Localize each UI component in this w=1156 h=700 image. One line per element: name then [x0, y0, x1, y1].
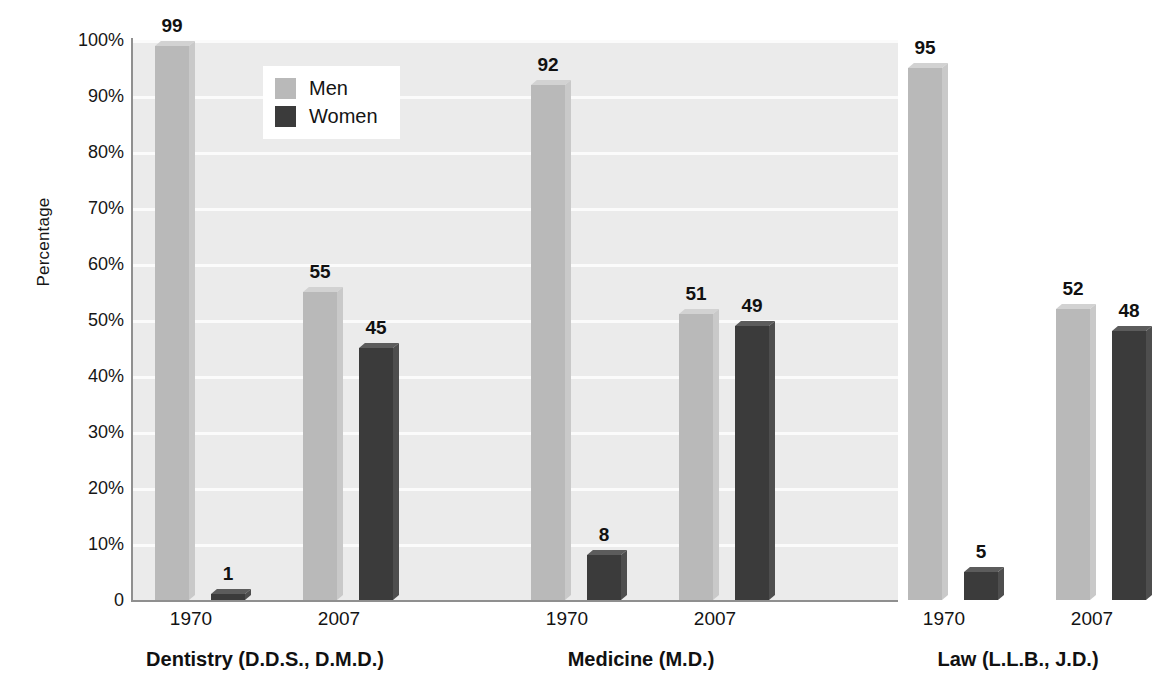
bar-value-label: 1: [202, 563, 254, 585]
bar-side-face: [337, 287, 343, 600]
bar-value-label: 99: [146, 15, 198, 37]
y-axis-tick-60: 60%: [44, 254, 124, 275]
bar-side-face: [1146, 326, 1152, 600]
bar-women-law-2007: [1112, 331, 1152, 600]
x-axis-group-label: Dentistry (D.D.S., D.M.D.): [95, 648, 435, 671]
x-axis-group-label: Medicine (M.D.): [471, 648, 811, 671]
gridline-90: [133, 96, 898, 99]
bar-side-face: [393, 343, 399, 600]
y-axis-tick-10: 10%: [44, 534, 124, 555]
bar-face: [359, 348, 393, 600]
bar-side-face: [942, 63, 948, 600]
bar-value-label: 8: [578, 524, 630, 546]
bar-face: [155, 46, 189, 600]
bar-side-face: [998, 567, 1004, 600]
y-axis-tick-100: 100%: [44, 30, 124, 51]
bar-face: [303, 292, 337, 600]
bar-women-law-1970: [964, 572, 1004, 600]
chart-legend: MenWomen: [263, 66, 400, 139]
legend-label: Men: [309, 77, 348, 100]
x-axis-year-law-2007: 2007: [1037, 608, 1147, 630]
bar-men-medicine-1970: [531, 85, 571, 600]
gridline-70: [133, 208, 898, 211]
bar-men-law-2007: [1056, 309, 1096, 600]
x-axis-year-medicine-2007: 2007: [660, 608, 770, 630]
legend-swatch-icon: [275, 106, 296, 127]
bar-side-face: [565, 80, 571, 600]
bar-face: [531, 85, 565, 600]
bar-women-dentistry-2007: [359, 348, 399, 600]
plot-area: 991554592851499555248: [133, 40, 898, 600]
bar-value-label: 5: [955, 541, 1007, 563]
x-axis-year-dentistry-2007: 2007: [284, 608, 394, 630]
gridline-80: [133, 152, 898, 155]
bar-face: [735, 326, 769, 600]
legend-label: Women: [309, 105, 378, 128]
bar-women-dentistry-1970: [211, 594, 251, 600]
bar-face: [1112, 331, 1146, 600]
bar-side-face: [769, 321, 775, 600]
bar-side-face: [621, 550, 627, 600]
y-axis-tick-30: 30%: [44, 422, 124, 443]
x-axis-group-labels: Dentistry (D.D.S., D.M.D.)Medicine (M.D.…: [133, 648, 898, 682]
bar-value-label: 45: [350, 317, 402, 339]
bar-side-face: [189, 41, 195, 600]
gridline-20: [133, 488, 898, 491]
bar-side-face: [713, 309, 719, 600]
legend-item-men: Men: [275, 74, 378, 102]
gridline-50: [133, 320, 898, 323]
y-axis-tick-70: 70%: [44, 198, 124, 219]
bar-value-label: 49: [726, 295, 778, 317]
x-axis-year-dentistry-1970: 1970: [136, 608, 246, 630]
bar-men-dentistry-1970: [155, 46, 195, 600]
bar-face: [964, 572, 998, 600]
bar-face: [679, 314, 713, 600]
x-axis-year-medicine-1970: 1970: [512, 608, 622, 630]
bar-value-label: 95: [899, 37, 951, 59]
x-axis-year-law-1970: 1970: [889, 608, 999, 630]
bar-women-medicine-2007: [735, 326, 775, 600]
bar-face: [908, 68, 942, 600]
y-axis-tick-50: 50%: [44, 310, 124, 331]
gridline-100: [133, 40, 898, 43]
y-axis-tick-90: 90%: [44, 86, 124, 107]
bar-men-medicine-2007: [679, 314, 719, 600]
bar-men-law-1970: [908, 68, 948, 600]
bar-women-medicine-1970: [587, 555, 627, 600]
y-axis-tick-0: 0: [44, 590, 124, 611]
y-axis-tick-labels: 100%90%80%70%60%50%40%30%20%10%0: [44, 40, 124, 600]
bar-face: [1056, 309, 1090, 600]
y-axis-tick-40: 40%: [44, 366, 124, 387]
x-axis-year-labels: 197020071970200719702007: [133, 608, 898, 638]
bar-value-label: 48: [1103, 300, 1155, 322]
bar-face: [587, 555, 621, 600]
bar-value-label: 92: [522, 54, 574, 76]
gridline-60: [133, 264, 898, 267]
y-axis-tick-80: 80%: [44, 142, 124, 163]
gridline-30: [133, 432, 898, 435]
bar-side-face: [1090, 304, 1096, 600]
bar-men-dentistry-2007: [303, 292, 343, 600]
x-axis-group-label: Law (L.L.B., J.D.): [848, 648, 1156, 671]
legend-swatch-icon: [275, 78, 296, 99]
y-axis-tick-20: 20%: [44, 478, 124, 499]
bar-value-label: 52: [1047, 278, 1099, 300]
gridline-40: [133, 376, 898, 379]
x-axis-line: [131, 600, 898, 602]
gridline-10: [133, 544, 898, 547]
bar-value-label: 55: [294, 261, 346, 283]
legend-item-women: Women: [275, 102, 378, 130]
bar-value-label: 51: [670, 283, 722, 305]
bar-face: [211, 594, 245, 600]
